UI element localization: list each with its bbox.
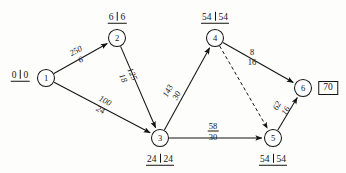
edge-label-numerator: 58	[208, 122, 219, 132]
earliest-time-2: 6	[109, 12, 114, 22]
project-duration: 70	[318, 81, 338, 95]
latest-time-4: 54	[219, 12, 229, 22]
edge-label-denominator: 16	[247, 57, 258, 66]
edge-label-denominator: 30	[208, 132, 219, 141]
time-separator	[160, 154, 161, 163]
edge-2-to-3	[121, 46, 156, 127]
node-time-label-5: 5454	[259, 154, 287, 166]
node-label-6: 6	[301, 84, 305, 93]
node-label-2: 2	[115, 34, 119, 43]
earliest-time-3: 24	[147, 154, 157, 164]
time-separator	[20, 70, 21, 79]
node-label-4: 4	[213, 34, 217, 43]
earliest-time-1: 0	[12, 70, 17, 80]
latest-time-1: 0	[24, 70, 29, 80]
node-label-3: 3	[158, 134, 162, 143]
node-label-1: 1	[44, 74, 48, 83]
time-separator	[215, 12, 216, 21]
network-diagram: 2506100241251814330583081662161002663242…	[0, 0, 346, 173]
earliest-time-5: 54	[260, 154, 270, 164]
node-time-label-3: 2424	[146, 154, 174, 166]
node-time-label-1: 00	[11, 70, 30, 82]
edge-label-4-to-6: 816	[247, 48, 258, 66]
node-time-label-2: 66	[108, 12, 127, 24]
latest-time-3: 24	[164, 154, 174, 164]
time-separator	[273, 154, 274, 163]
edge-label-numerator: 8	[247, 48, 258, 57]
edge-label-3-to-5: 5830	[208, 122, 219, 141]
node-time-label-4: 5454	[201, 12, 229, 24]
time-separator	[117, 12, 118, 21]
edge-4-to-5	[220, 46, 268, 129]
node-label-5: 5	[271, 134, 275, 143]
latest-time-2: 6	[121, 12, 126, 22]
edge-4-to-6	[223, 42, 293, 82]
earliest-time-4: 54	[202, 12, 212, 22]
latest-time-5: 54	[277, 154, 287, 164]
